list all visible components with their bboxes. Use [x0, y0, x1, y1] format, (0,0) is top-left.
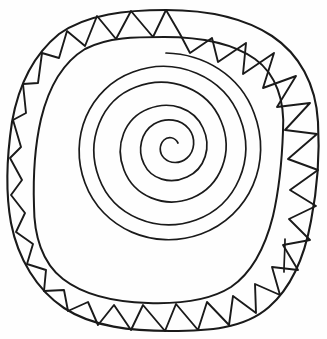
mandala-illustration: Spiral Mandala Line Drawing A hand-drawn… [0, 0, 327, 339]
inner-rim-outline [34, 37, 284, 303]
border-ring-group [7, 10, 318, 331]
spiral-curve [79, 53, 261, 240]
stray-pen-mark [284, 239, 285, 272]
border-zigzag-triangles [10, 10, 318, 331]
artboard: Spiral Mandala Line Drawing A hand-drawn… [0, 0, 327, 339]
spiral-group [79, 53, 261, 240]
